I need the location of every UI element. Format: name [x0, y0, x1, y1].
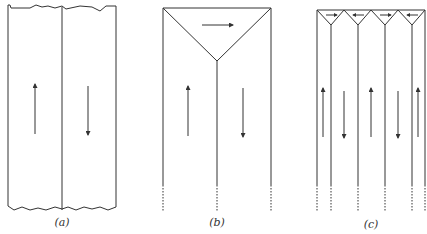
panel-b — [163, 8, 271, 212]
domain-diagram — [0, 0, 427, 234]
caption-c: (c) — [364, 218, 379, 231]
caption-a: (a) — [54, 216, 69, 229]
closure-walls — [317, 10, 425, 25]
closure-wall-left — [163, 8, 217, 61]
closure-wall-right — [217, 8, 271, 61]
panel-c — [317, 10, 425, 212]
caption-b: (b) — [209, 216, 225, 229]
panel-a — [8, 5, 116, 210]
